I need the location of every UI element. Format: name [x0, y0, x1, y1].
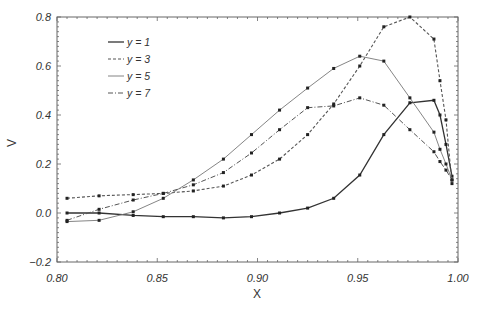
data-point-marker [98, 219, 101, 222]
data-point-marker [162, 197, 165, 200]
legend-label: y = 1 [126, 36, 150, 48]
data-series [66, 16, 454, 224]
data-point-marker [438, 160, 441, 163]
data-point-marker [382, 104, 385, 107]
data-point-marker [250, 215, 253, 218]
data-point-marker [98, 194, 101, 197]
data-point-marker [162, 215, 165, 218]
legend-item: y = 5 [108, 70, 150, 82]
data-point-marker [250, 174, 253, 177]
data-point-marker [382, 60, 385, 63]
axis-ticks [57, 17, 458, 262]
data-point-marker [192, 189, 195, 192]
data-point-marker [438, 114, 441, 117]
y-tick-label: 0.4 [36, 109, 51, 121]
data-point-marker [222, 216, 225, 219]
data-point-marker [332, 67, 335, 70]
x-tick-label: 0.95 [347, 272, 369, 284]
data-point-marker [450, 178, 453, 181]
legend: y = 1y = 3y = 5y = 7 [108, 36, 151, 99]
data-point-marker [450, 182, 453, 185]
data-point-marker [382, 25, 385, 28]
data-point-marker [432, 38, 435, 41]
data-point-marker [192, 183, 195, 186]
legend-label: y = 3 [126, 53, 150, 65]
y-tick-label: 0.2 [36, 158, 51, 170]
data-point-marker [66, 219, 69, 222]
data-point-marker [358, 174, 361, 177]
x-tick-label: 1.00 [447, 272, 469, 284]
data-point-marker [250, 133, 253, 136]
data-point-marker [132, 199, 135, 202]
data-point-marker [98, 212, 101, 215]
x-axis-tick-labels: 0.800.850.900.951.00 [46, 272, 469, 284]
data-point-marker [432, 131, 435, 134]
data-point-marker [438, 148, 441, 151]
legend-item: y = 3 [108, 53, 150, 65]
data-point-marker [192, 215, 195, 218]
series-y-1 [66, 99, 454, 220]
series-line [67, 100, 452, 218]
data-point-marker [408, 128, 411, 131]
series-line [67, 56, 452, 221]
data-point-marker [306, 133, 309, 136]
data-point-marker [408, 101, 411, 104]
data-point-marker [250, 151, 253, 154]
y-axis-tick-labels: −0.20.00.20.40.60.8 [29, 11, 52, 268]
data-point-marker [306, 87, 309, 90]
series-y-7 [66, 96, 454, 222]
data-point-marker [278, 109, 281, 112]
series-y-5 [66, 55, 454, 223]
data-point-marker [222, 185, 225, 188]
data-point-marker [444, 163, 447, 166]
y-tick-label: 0.8 [36, 11, 52, 23]
series-line [67, 17, 452, 198]
data-point-marker [222, 158, 225, 161]
data-point-marker [132, 193, 135, 196]
x-tick-label: 0.90 [247, 272, 269, 284]
y-tick-label: −0.2 [29, 256, 51, 268]
data-point-marker [306, 106, 309, 109]
data-point-marker [432, 99, 435, 102]
data-point-marker [358, 65, 361, 68]
data-point-marker [382, 133, 385, 136]
data-point-marker [408, 16, 411, 19]
x-tick-label: 0.80 [46, 272, 68, 284]
data-point-marker [358, 96, 361, 99]
legend-label: y = 5 [126, 70, 150, 82]
legend-item: y = 7 [108, 87, 151, 99]
line-chart: −0.20.00.20.40.60.8 0.800.850.900.951.00… [0, 0, 481, 309]
y-tick-label: 0.6 [36, 60, 52, 72]
legend-item: y = 1 [108, 36, 150, 48]
data-point-marker [162, 192, 165, 195]
data-point-marker [278, 158, 281, 161]
data-point-marker [444, 169, 447, 172]
data-point-marker [278, 128, 281, 131]
series-y-3 [66, 16, 454, 200]
data-point-marker [192, 178, 195, 181]
y-tick-label: 0.0 [36, 207, 52, 219]
data-point-marker [432, 150, 435, 153]
data-point-marker [358, 55, 361, 58]
data-point-marker [132, 210, 135, 213]
y-axis-label: V [5, 139, 19, 147]
data-point-marker [332, 104, 335, 107]
data-point-marker [444, 143, 447, 146]
data-point-marker [222, 171, 225, 174]
data-point-marker [408, 96, 411, 99]
data-point-marker [438, 79, 441, 82]
data-point-marker [132, 214, 135, 217]
data-point-marker [66, 197, 69, 200]
plot-frame [57, 17, 458, 262]
data-point-marker [444, 118, 447, 121]
legend-label: y = 7 [126, 87, 151, 99]
data-point-marker [332, 197, 335, 200]
series-line [67, 98, 452, 220]
data-point-marker [306, 207, 309, 210]
data-point-marker [98, 208, 101, 211]
x-axis-label: X [253, 287, 261, 301]
data-point-marker [66, 212, 69, 215]
x-tick-label: 0.85 [147, 272, 169, 284]
data-point-marker [278, 212, 281, 215]
